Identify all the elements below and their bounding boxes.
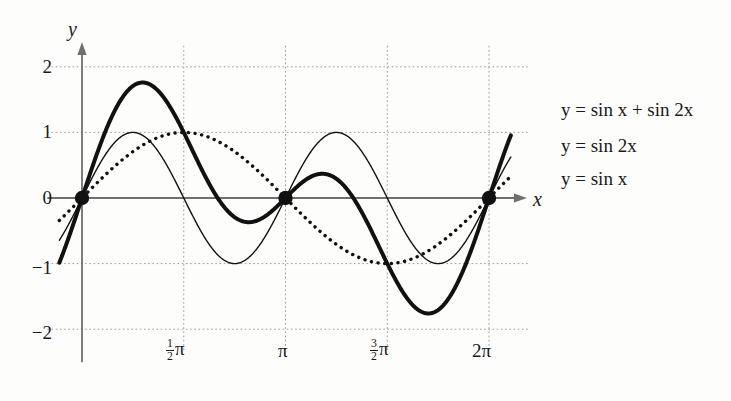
y-tick-label-neg1: −1 [10, 257, 52, 279]
legend-entry-sinx: y = sin x [561, 169, 627, 188]
y-tick-label-2: 2 [18, 56, 52, 78]
zero-marker [278, 191, 292, 205]
x-tick-label-pi: π [278, 340, 288, 362]
zero-marker [75, 191, 89, 205]
y-tick-label-1: 1 [18, 121, 52, 143]
legend-entry-sin2x: y = sin 2x [561, 136, 637, 155]
y-tick-label-neg2: −2 [10, 322, 52, 344]
zero-marker [482, 191, 496, 205]
x-tick-label-two-pi: 2π [472, 340, 491, 362]
legend-entry-sum: y = sin x + sin 2x [561, 100, 693, 119]
pi-symbol: π [175, 338, 185, 359]
y-tick-label-0: 0 [18, 187, 52, 209]
x-tick-label-three-halves-pi: 3 2 π [370, 338, 388, 363]
figure-canvas: y x 2 1 0 −1 −2 1 2 π π 3 2 π 2π y = sin… [0, 0, 731, 401]
plot-area: y x [0, 0, 731, 401]
pi-symbol: π [379, 338, 389, 359]
y-axis-label: y [66, 18, 77, 41]
x-tick-label-half-pi: 1 2 π [166, 338, 184, 363]
x-axis-label: x [532, 188, 542, 210]
fraction-three-halves: 3 2 [370, 338, 378, 363]
fraction-one-half: 1 2 [166, 338, 174, 363]
